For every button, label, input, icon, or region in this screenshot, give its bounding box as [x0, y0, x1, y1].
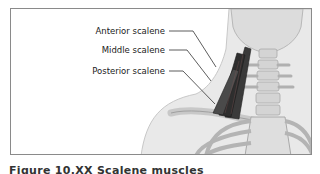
label-anterior-scalene: Anterior scalene [95, 26, 165, 36]
leader-middle [169, 50, 211, 81]
label-middle-scalene: Middle scalene [102, 45, 165, 55]
figure-frame: Anterior scalene Middle scalene Posterio… [10, 8, 312, 155]
figure-caption: Figure 10.XX Scalene muscles [9, 164, 204, 174]
label-posterior-scalene: Posterior scalene [92, 66, 165, 76]
leader-anterior [169, 31, 216, 67]
sternum [245, 117, 291, 155]
